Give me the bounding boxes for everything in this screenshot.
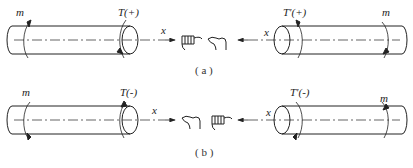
shaft-b-right (248, 102, 407, 140)
axis-label-a-left: x (161, 24, 166, 36)
moment-label-a-right: m (382, 6, 390, 18)
moment-label-b-right: m (380, 92, 388, 104)
caption-b: ( b ) (195, 146, 213, 158)
moment-label-b-left: m (22, 86, 30, 98)
right-hand-thumb-outward-icon (182, 36, 202, 50)
axis-label-b-left: x (152, 104, 157, 116)
shaft-a-right (248, 20, 407, 58)
moment-label-a-left: m (16, 6, 24, 18)
axis-label-b-right: x (266, 106, 271, 118)
shaft-a-left (7, 20, 165, 58)
torque-label-a-left: T(+) (118, 6, 139, 18)
torque-label-a-right: T'(+) (283, 6, 306, 18)
axis-label-a-right: x (264, 26, 269, 38)
torque-label-b-right: T'(-) (290, 86, 309, 98)
torque-diagram (0, 0, 413, 168)
shaft-b-left (7, 101, 165, 140)
caption-a: ( a ) (195, 64, 213, 76)
right-hand-thumb-outward-icon (208, 37, 226, 50)
torque-label-b-left: T(-) (120, 86, 137, 98)
right-hand-thumb-inward-icon (182, 116, 200, 129)
right-hand-thumb-inward-icon (212, 116, 232, 130)
